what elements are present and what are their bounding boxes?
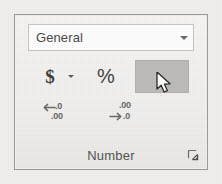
- ribbon-group-surface: General $ % ,: [16, 16, 206, 168]
- chevron-down-icon: [68, 75, 74, 78]
- increase-decimal-top-text: .0: [55, 102, 62, 111]
- increase-decimal-button[interactable]: .0 .00: [40, 97, 74, 127]
- comma-style-icon: ,: [159, 67, 166, 81]
- arrow-right-icon: [109, 112, 123, 121]
- dialog-box-launcher-icon[interactable]: [186, 148, 200, 162]
- decimal-button-row: .0 .00 .00 .0: [16, 96, 206, 128]
- number-format-value: General: [29, 30, 175, 45]
- decrease-decimal-top-text: .00: [119, 101, 131, 110]
- accounting-format-dropdown-button[interactable]: [64, 61, 77, 91]
- increase-decimal-icon: .0 .00: [42, 100, 72, 124]
- percent-style-button[interactable]: %: [91, 61, 121, 91]
- percent-icon: %: [97, 66, 115, 86]
- ribbon-group-footer: Number: [17, 143, 205, 167]
- chevron-down-icon[interactable]: [175, 25, 193, 50]
- decrease-decimal-bottom-text: .0: [123, 112, 130, 121]
- excel-number-group-screenshot: General $ % ,: [0, 0, 222, 184]
- number-format-combobox[interactable]: General: [28, 24, 194, 51]
- comma-style-button[interactable]: ,: [135, 60, 189, 93]
- dollar-sign-icon: $: [45, 67, 55, 86]
- decrease-decimal-button[interactable]: .00 .0: [106, 97, 140, 127]
- increase-decimal-bottom-text: .00: [51, 112, 63, 121]
- decrease-decimal-icon: .00 .0: [108, 100, 138, 124]
- accounting-number-format-button[interactable]: $: [36, 61, 64, 91]
- number-format-button-row: $ % ,: [16, 59, 206, 93]
- group-label: Number: [87, 148, 134, 163]
- number-ribbon-group: General $ % ,: [14, 14, 208, 170]
